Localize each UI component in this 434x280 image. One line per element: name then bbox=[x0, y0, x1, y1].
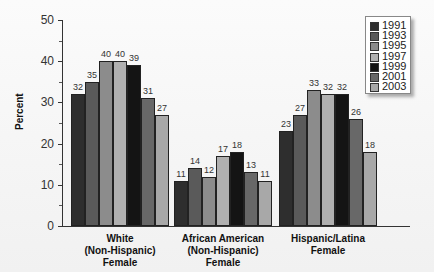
y-tick bbox=[58, 144, 62, 145]
category-label: African American(Non-Hispanic)Female bbox=[163, 233, 283, 269]
bar-1993 bbox=[85, 82, 99, 226]
y-minor-tick bbox=[59, 205, 62, 206]
category-label-line: (Non-Hispanic) bbox=[60, 245, 180, 257]
category-label-line: African American bbox=[163, 233, 283, 245]
category-label-line: Female bbox=[163, 257, 283, 269]
bar-chart: Percent 01020304050 32354040393127111412… bbox=[0, 0, 434, 272]
category-label-line: Female bbox=[268, 245, 388, 257]
bar-value-label: 18 bbox=[360, 140, 380, 150]
legend: 1991199319951997199920012003 bbox=[365, 16, 411, 94]
bar-value-label: 26 bbox=[346, 107, 366, 117]
y-minor-tick bbox=[59, 164, 62, 165]
y-tick-label: 40 bbox=[24, 54, 54, 68]
x-axis-line bbox=[62, 226, 410, 227]
legend-label: 2003 bbox=[382, 80, 406, 92]
legend-swatch-icon bbox=[370, 32, 379, 41]
bar-1993 bbox=[293, 115, 307, 226]
y-tick-label: 50 bbox=[24, 13, 54, 27]
bar-1993 bbox=[188, 168, 202, 226]
bar-1991 bbox=[71, 94, 85, 226]
bar-2001 bbox=[141, 98, 155, 226]
y-tick-label: 30 bbox=[24, 95, 54, 109]
category-label-line: White bbox=[60, 233, 180, 245]
y-tick bbox=[58, 185, 62, 186]
bar-value-label: 11 bbox=[255, 169, 275, 179]
legend-swatch-icon bbox=[370, 73, 379, 82]
category-label: White(Non-Hispanic)Female bbox=[60, 233, 180, 269]
y-minor-tick bbox=[59, 82, 62, 83]
bar-1995 bbox=[202, 177, 216, 226]
bar-2001 bbox=[349, 119, 363, 226]
y-tick-label: 20 bbox=[24, 137, 54, 151]
y-tick bbox=[58, 102, 62, 103]
bar-2001 bbox=[244, 172, 258, 226]
legend-swatch-icon bbox=[370, 53, 379, 62]
bar-value-label: 27 bbox=[152, 103, 172, 113]
y-tick bbox=[58, 20, 62, 21]
y-axis-line bbox=[62, 20, 63, 226]
bar-value-label: 39 bbox=[124, 53, 144, 63]
bar-1995 bbox=[307, 90, 321, 226]
bar-value-label: 31 bbox=[138, 86, 158, 96]
bar-1991 bbox=[279, 131, 293, 226]
bar-1997 bbox=[113, 61, 127, 226]
category-label-line: Hispanic/Latina bbox=[268, 233, 388, 245]
y-tick-label: 10 bbox=[24, 178, 54, 192]
y-minor-tick bbox=[59, 41, 62, 42]
legend-swatch-icon bbox=[370, 42, 379, 51]
y-tick bbox=[58, 61, 62, 62]
bar-value-label: 18 bbox=[227, 140, 247, 150]
bar-2003 bbox=[155, 115, 169, 226]
bar-1997 bbox=[321, 94, 335, 226]
y-minor-tick bbox=[59, 123, 62, 124]
category-label-line: Female bbox=[60, 257, 180, 269]
legend-swatch-icon bbox=[370, 63, 379, 72]
category-label-line: (Non-Hispanic) bbox=[163, 245, 283, 257]
bar-1995 bbox=[99, 61, 113, 226]
bar-2003 bbox=[258, 181, 272, 226]
category-label: Hispanic/LatinaFemale bbox=[268, 233, 388, 257]
legend-swatch-icon bbox=[370, 83, 379, 92]
bar-1991 bbox=[174, 181, 188, 226]
bar-value-label: 32 bbox=[332, 82, 352, 92]
bar-1997 bbox=[216, 156, 230, 226]
legend-swatch-icon bbox=[370, 22, 379, 31]
bar-2003 bbox=[363, 152, 377, 226]
y-tick-label: 0 bbox=[24, 219, 54, 233]
